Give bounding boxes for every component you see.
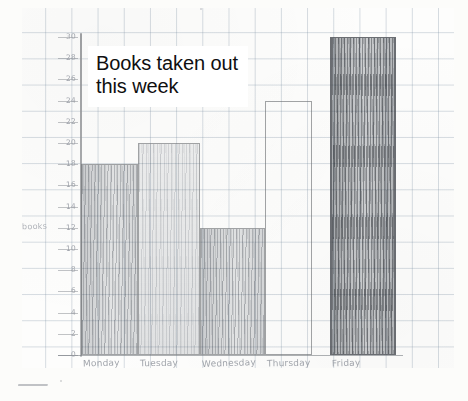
- bar-thursday: [265, 101, 312, 355]
- bar-tuesday: [138, 143, 200, 355]
- pencil-shading: [82, 165, 137, 354]
- y-axis-tick-label: 6: [50, 286, 76, 296]
- pencil-shading: [139, 144, 199, 354]
- bar-chart-plot: books 024681012141618202224262830 Monday…: [0, 0, 468, 401]
- x-axis-line: [58, 355, 403, 356]
- paper-speck: [200, 8, 202, 10]
- bar-friday: [330, 37, 396, 355]
- y-axis-tick-label: 30: [50, 32, 76, 42]
- y-axis-title: books: [22, 222, 47, 232]
- y-axis-tick-label: 8: [50, 265, 76, 275]
- chart-title-line-2: this week: [96, 75, 238, 98]
- y-axis-tick-label: 2: [50, 329, 76, 339]
- stray-pencil-mark: [18, 384, 48, 386]
- y-axis-tick-label: 10: [50, 244, 76, 254]
- chart-title-line-1: Books taken out: [96, 52, 238, 75]
- pencil-shading: [332, 38, 394, 354]
- x-axis-label-monday: Monday: [83, 357, 120, 368]
- chart-title: Books taken out this week: [88, 46, 248, 107]
- pencil-shading: [201, 229, 264, 354]
- y-axis-tick-label: 12: [50, 223, 76, 233]
- y-axis-tick-label: 4: [50, 307, 76, 317]
- pencil-shading: [266, 102, 311, 354]
- y-axis-tick-label: 18: [50, 159, 76, 169]
- y-axis-tick-label: 16: [50, 180, 76, 190]
- y-axis-tick-label: 22: [50, 117, 76, 127]
- bar-wednesday: [200, 228, 265, 355]
- bar-monday: [81, 164, 138, 355]
- x-axis-label-friday: Friday: [332, 357, 361, 368]
- y-axis-tick-label: 20: [50, 138, 76, 148]
- y-axis-tick-label: 28: [50, 53, 76, 63]
- paper-speck: [60, 380, 62, 382]
- y-axis-tick-label: 14: [50, 201, 76, 211]
- y-axis-tick-label: 26: [50, 74, 76, 84]
- chart-screenshot: books 024681012141618202224262830 Monday…: [0, 0, 468, 401]
- x-axis-label-tuesday: Tuesday: [140, 358, 178, 369]
- x-axis-label-thursday: Thursday: [267, 358, 311, 369]
- x-axis-label-wednesday: Wednesday: [202, 357, 256, 369]
- y-axis-tick-label: 0: [50, 350, 76, 360]
- y-axis-tick-label: 24: [50, 95, 76, 105]
